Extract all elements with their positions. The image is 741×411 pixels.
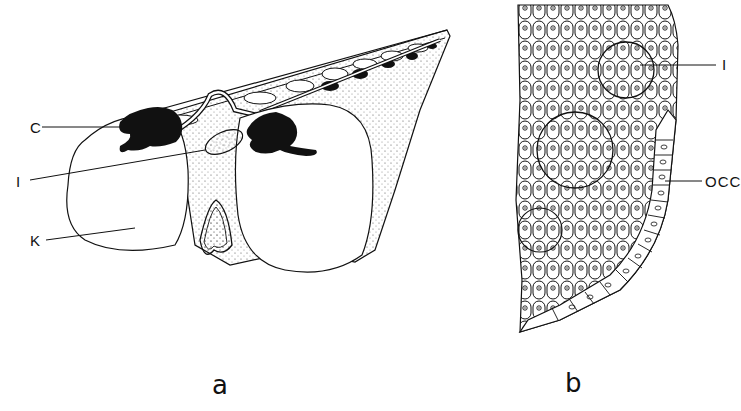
label-i-panel-b: I bbox=[722, 57, 727, 72]
label-c: C bbox=[30, 120, 42, 135]
label-i-panel-a: I bbox=[16, 174, 21, 189]
label-occ: OCC bbox=[705, 174, 741, 189]
panel-b-drawing bbox=[516, 5, 716, 332]
panel-a-drawing bbox=[30, 30, 450, 272]
panel-caption-a: a bbox=[212, 372, 228, 398]
panel-caption-b: b bbox=[565, 370, 582, 396]
label-k: K bbox=[30, 233, 41, 248]
